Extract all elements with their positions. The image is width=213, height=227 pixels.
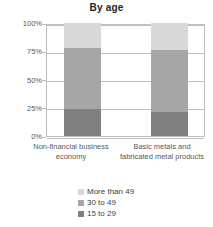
chart-title: By age (0, 2, 213, 13)
y-axis-tick-label-25pct: 25% (0, 105, 42, 113)
bar-segment (64, 109, 101, 136)
bar-segment (151, 23, 188, 50)
legend-label: 30 to 49 (87, 198, 116, 207)
x-axis-category-label-1: Basic metals and fabricated metal produc… (118, 142, 206, 162)
gridline-0pct (47, 138, 204, 139)
y-axis-tick-label-100pct: 100% (0, 20, 42, 28)
chart-legend: More than 4930 to 4915 to 29 (0, 186, 213, 219)
legend-swatch-icon (78, 200, 84, 206)
bar-segment (64, 48, 101, 109)
chart-container: By age 0%25%50%75%100% Non-financial bus… (0, 0, 213, 227)
bar-segment (151, 50, 188, 112)
bar-1 (151, 23, 188, 136)
legend-swatch-icon (78, 211, 84, 217)
legend-label: More than 49 (87, 187, 134, 196)
legend-item[interactable]: 30 to 49 (0, 197, 213, 208)
bar-segment (64, 23, 101, 48)
x-axis-category-label-0: Non-financial business economy (28, 142, 114, 162)
y-axis-tick-label-0pct: 0% (0, 133, 42, 141)
y-axis-tick-label-75pct: 75% (0, 48, 42, 56)
legend-swatch-icon (78, 189, 84, 195)
legend-item[interactable]: More than 49 (0, 186, 213, 197)
y-axis-tick-label-50pct: 50% (0, 77, 42, 85)
plot-area (46, 24, 205, 137)
bar-0 (64, 23, 101, 136)
legend-item[interactable]: 15 to 29 (0, 208, 213, 219)
legend-label: 15 to 29 (87, 209, 116, 218)
bar-segment (151, 112, 188, 136)
